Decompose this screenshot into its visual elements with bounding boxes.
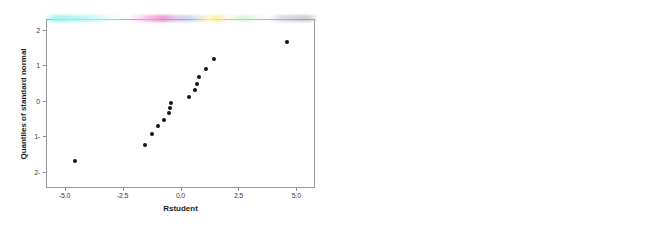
data-point	[150, 132, 154, 136]
x-tick-label: 5.0	[292, 192, 301, 199]
x-tick	[123, 188, 124, 191]
x-tick	[296, 188, 297, 191]
data-point	[73, 159, 77, 163]
data-point	[187, 95, 191, 99]
data-point	[204, 67, 208, 71]
data-point	[168, 106, 172, 110]
data-point	[193, 88, 197, 92]
data-point	[143, 143, 147, 147]
figure-container: -5.0-2.50.02.55.0-2-1012 Rstudent Quanti…	[0, 0, 662, 226]
x-tick	[238, 188, 239, 191]
x-tick	[65, 188, 66, 191]
y-tick	[43, 172, 46, 173]
x-tick-label: 2.5	[234, 192, 243, 199]
qq-plot-panel: -5.0-2.50.02.55.0-2-1012 Rstudent Quanti…	[0, 0, 331, 226]
qq-plot-xaxis-title: Rstudent	[163, 204, 198, 213]
data-point	[212, 57, 216, 61]
qq-plot-frame	[46, 19, 315, 188]
y-tick	[43, 101, 46, 102]
x-tick-label: -2.5	[117, 192, 128, 199]
y-tick	[43, 30, 46, 31]
data-point	[167, 111, 171, 115]
qq-plot-yaxis-title: Quantiles of standard normal	[19, 48, 28, 159]
x-tick-label: 0.0	[176, 192, 185, 199]
y-tick	[43, 65, 46, 66]
x-tick-label: -5.0	[59, 192, 70, 199]
data-point	[197, 75, 201, 79]
data-point	[195, 82, 199, 86]
residual-plot-panel: 650700750800850-5.0-2.50.02.55.0 Fitted …	[331, 0, 662, 226]
data-point	[285, 40, 289, 44]
data-point	[156, 124, 160, 128]
x-tick	[181, 188, 182, 191]
data-point	[169, 101, 173, 105]
y-tick	[43, 136, 46, 137]
data-point	[162, 118, 166, 122]
